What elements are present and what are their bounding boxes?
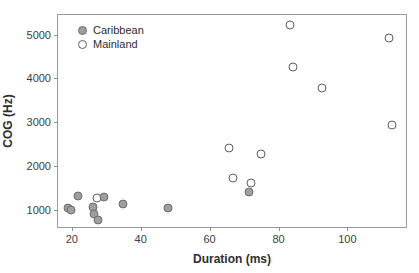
x-axis-tick-label: 100 bbox=[338, 234, 356, 245]
y-axis-tick bbox=[54, 35, 58, 36]
legend-entry-mainland: Mainland bbox=[78, 37, 144, 51]
y-axis-tick bbox=[54, 210, 58, 211]
data-point-mainland bbox=[246, 179, 255, 188]
open-circle-marker-icon bbox=[78, 40, 87, 49]
data-point-caribbean bbox=[119, 200, 128, 209]
x-axis-tick bbox=[72, 227, 73, 231]
data-point-caribbean bbox=[93, 216, 102, 225]
y-axis-tick-label: 1000 bbox=[27, 204, 51, 215]
y-axis-tick bbox=[54, 122, 58, 123]
data-point-mainland bbox=[224, 144, 233, 153]
y-axis-tick bbox=[54, 78, 58, 79]
data-point-caribbean bbox=[67, 205, 76, 214]
filled-circle-marker-icon bbox=[78, 26, 87, 35]
x-axis-tick-label: 60 bbox=[203, 234, 215, 245]
x-axis-title: Duration (ms) bbox=[57, 252, 407, 266]
data-point-caribbean bbox=[99, 192, 108, 201]
legend-entry-label: Mainland bbox=[93, 39, 138, 50]
y-axis-tick-label: 2000 bbox=[27, 160, 51, 171]
legend: Caribbean Mainland bbox=[78, 23, 144, 51]
x-axis-tick bbox=[279, 227, 280, 231]
data-point-mainland bbox=[229, 173, 238, 182]
data-point-mainland bbox=[388, 121, 397, 130]
x-axis-tick bbox=[210, 227, 211, 231]
y-axis-tick-label: 5000 bbox=[27, 29, 51, 40]
x-axis-tick bbox=[347, 227, 348, 231]
y-axis-title: COG (Hz) bbox=[0, 14, 16, 228]
y-axis-title-text: COG (Hz) bbox=[1, 94, 15, 147]
data-point-mainland bbox=[257, 150, 266, 159]
x-axis-tick-label: 40 bbox=[135, 234, 147, 245]
x-axis-tick bbox=[141, 227, 142, 231]
y-axis-tick bbox=[54, 166, 58, 167]
data-point-caribbean bbox=[163, 203, 172, 212]
y-axis-tick-label: 4000 bbox=[27, 73, 51, 84]
data-point-mainland bbox=[289, 62, 298, 71]
data-point-caribbean bbox=[244, 188, 253, 197]
x-axis-tick-label: 80 bbox=[272, 234, 284, 245]
x-axis-tick-label: 20 bbox=[66, 234, 78, 245]
data-point-mainland bbox=[385, 34, 394, 43]
legend-entry-caribbean: Caribbean bbox=[78, 23, 144, 37]
data-point-caribbean bbox=[73, 191, 82, 200]
data-point-mainland bbox=[317, 83, 326, 92]
plot-frame: 1000200030004000500020406080100 Caribbea… bbox=[57, 14, 407, 228]
data-point-mainland bbox=[285, 21, 294, 30]
legend-entry-label: Caribbean bbox=[93, 25, 144, 36]
scatter-chart-figure: COG (Hz) 1000200030004000500020406080100… bbox=[0, 0, 419, 273]
y-axis-tick-label: 3000 bbox=[27, 117, 51, 128]
